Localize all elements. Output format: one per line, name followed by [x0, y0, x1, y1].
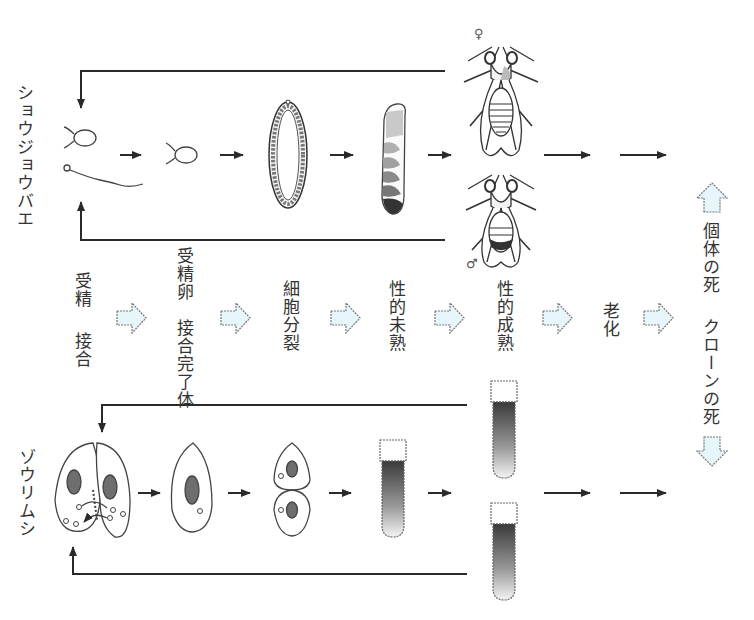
stage-label-exconjugant: 接合完了体	[174, 319, 194, 409]
stage-arrow-3	[331, 303, 360, 333]
stage-arrow-5	[543, 303, 572, 333]
male-symbol: ♂	[466, 256, 478, 271]
culture-tube-2	[491, 381, 517, 478]
stage-label-sexual-maturity: 性的成熟	[494, 280, 514, 352]
organism-label-paramecium: ゾウリムシ	[16, 448, 36, 538]
conjugating-paramecia	[55, 443, 130, 537]
adult-fly-female	[464, 47, 538, 156]
stage-arrow-2	[221, 303, 250, 333]
female-symbol: ♀	[474, 26, 484, 41]
exconjugant	[171, 443, 212, 532]
stage-arrow-1	[117, 303, 146, 333]
stage-label-conjugation: 接合	[72, 332, 92, 368]
stage-label-sexual-immaturity: 性的未熟	[386, 280, 406, 352]
fertilized-egg	[166, 143, 197, 164]
culture-tube-1	[380, 440, 406, 537]
adult-fly-male	[466, 175, 536, 267]
life-cycle-diagram: ♀ ♂	[0, 0, 754, 620]
stage-arrows	[117, 183, 727, 466]
dividing-paramecium	[274, 443, 310, 536]
stage-label-fertilization: 受精	[72, 272, 92, 308]
outcome-individual-death: 個体の死	[700, 222, 720, 294]
organism-label-fly: ショウジョウバエ	[14, 84, 34, 228]
stage-label-cell-division: 細胞分裂	[280, 280, 300, 352]
culture-tube-3	[491, 503, 517, 600]
larva	[382, 104, 405, 214]
stage-arrow-4	[435, 303, 464, 333]
paramecium-cycle-loop	[73, 405, 467, 574]
stage-label-fertilized-egg: 受精卵	[174, 247, 194, 301]
stage-arrow-6	[644, 303, 673, 333]
up-arrow	[697, 183, 727, 212]
embryo-blastoderm	[269, 100, 307, 208]
stage-label-aging: 老化	[600, 302, 620, 338]
outcome-clone-death: クローンの死	[700, 318, 720, 426]
down-arrow	[697, 437, 727, 466]
egg-and-sperm	[64, 127, 143, 186]
